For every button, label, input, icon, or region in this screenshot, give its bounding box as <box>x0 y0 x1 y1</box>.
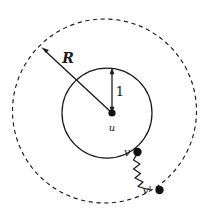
label-vertex-v-prime: v' <box>142 184 151 197</box>
radius-arrow <box>41 47 112 113</box>
geometry-diagram: R 1 u v v' <box>0 0 217 222</box>
vertex-u-dot <box>108 109 115 116</box>
label-vertex-v: v <box>124 146 131 159</box>
unit-arrow <box>110 68 115 114</box>
radius-arrowhead <box>41 47 49 53</box>
vertex-v-prime-dot <box>155 186 163 194</box>
label-radius-R: R <box>61 50 74 66</box>
inner-solid-circle <box>62 68 152 158</box>
label-vertex-u: u <box>109 122 115 133</box>
label-unit-1: 1 <box>116 84 124 99</box>
figure-canvas: R 1 u v v' <box>0 0 217 222</box>
outer-dashed-circle <box>13 19 197 203</box>
vertex-v-dot <box>133 148 141 156</box>
